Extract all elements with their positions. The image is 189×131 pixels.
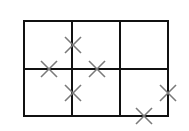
grid-diagram: [0, 0, 189, 131]
x-markers: [41, 37, 176, 124]
